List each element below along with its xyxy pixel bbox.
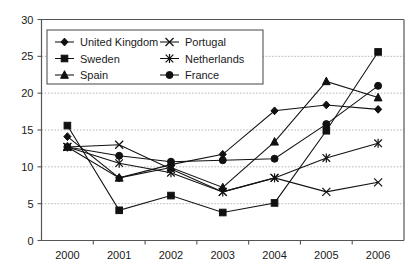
data-point-marker xyxy=(271,173,279,182)
series-netherlands xyxy=(64,139,382,197)
legend-item-label: France xyxy=(185,69,219,81)
x-axis-tick-label: 2005 xyxy=(314,249,338,261)
legend-item-label: Spain xyxy=(80,69,108,81)
y-axis-tick-label: 0 xyxy=(27,235,33,247)
chart-canvas: 051015202530 200020012002200320042005200… xyxy=(0,0,417,277)
x-axis-tick-label: 2000 xyxy=(55,249,79,261)
chart-legend: United KingdomSwedenSpainPortugalNetherl… xyxy=(47,30,263,84)
data-point-marker xyxy=(219,209,226,216)
y-axis-tick-label: 20 xyxy=(21,87,33,99)
data-point-marker xyxy=(271,155,278,162)
legend-item-label: United Kingdom xyxy=(80,36,158,48)
data-point-marker xyxy=(375,105,382,113)
y-axis-tick-label: 25 xyxy=(21,50,33,62)
y-axis-tick-label: 5 xyxy=(27,198,33,210)
legend-item-label: Portugal xyxy=(185,36,226,48)
data-point-marker xyxy=(322,77,330,85)
series-line xyxy=(67,105,378,178)
y-axis-tick-label: 15 xyxy=(21,124,33,136)
x-axis-tick-label: 2006 xyxy=(366,249,390,261)
data-point-marker xyxy=(219,187,227,196)
data-point-marker xyxy=(323,153,331,162)
data-point-marker xyxy=(167,158,174,165)
series-united-kingdom xyxy=(64,101,382,182)
data-point-marker xyxy=(116,207,123,214)
data-point-marker xyxy=(219,157,226,164)
data-point-marker xyxy=(116,152,123,159)
data-point-marker xyxy=(64,143,71,150)
y-axis-tick-labels: 051015202530 xyxy=(21,14,33,247)
data-point-marker xyxy=(374,139,382,148)
x-axis-tick-label: 2001 xyxy=(107,249,131,261)
x-axis-tick-label: 2003 xyxy=(211,249,235,261)
series-line xyxy=(67,81,378,187)
y-axis-tick-label: 10 xyxy=(21,161,33,173)
data-point-marker xyxy=(168,192,175,199)
data-point-marker xyxy=(323,127,330,134)
data-point-marker xyxy=(375,82,382,89)
legend-item-label: Sweden xyxy=(80,53,120,65)
line-chart: 051015202530 200020012002200320042005200… xyxy=(0,0,417,277)
x-axis-tick-label: 2004 xyxy=(262,249,286,261)
legend-marker-icon xyxy=(61,55,68,62)
data-point-marker xyxy=(64,122,71,129)
data-point-marker xyxy=(323,101,330,109)
data-point-marker xyxy=(64,133,71,141)
x-axis-tick-label: 2002 xyxy=(159,249,183,261)
data-point-marker xyxy=(375,49,382,56)
legend-marker-icon xyxy=(166,72,173,79)
x-axis-tick-labels: 2000200120022003200420052006 xyxy=(55,249,390,261)
y-axis-tick-label: 30 xyxy=(21,14,33,26)
data-point-marker xyxy=(323,121,330,128)
data-point-marker xyxy=(271,200,278,207)
legend-item-label: Netherlands xyxy=(185,53,245,65)
series-spain xyxy=(63,77,382,191)
